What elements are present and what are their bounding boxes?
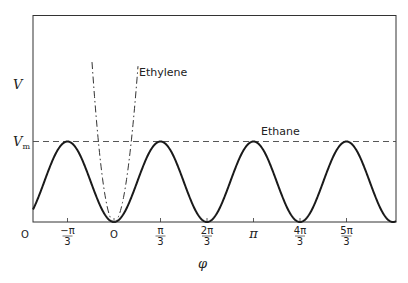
chart-canvas: −π3Oπ32π3π4π35π3 V Vm O φ Ethylene Ethan… [0,0,408,283]
tick-label-four-pi-third-denominator: 3 [297,236,303,247]
ethane-label: Ethane [261,125,300,138]
tick-label-pi: π [248,226,258,241]
tick-label-zero: O [110,229,118,240]
plot-frame [33,16,396,223]
origin-label: O [21,229,29,240]
vm-label: Vm [13,134,30,151]
y-axis-label: V [13,77,24,92]
tick-label-pi-third-numerator: π [157,225,163,236]
tick-label-five-pi-third-denominator: 3 [343,236,349,247]
ethane-curve [33,142,396,223]
tick-label-two-pi-third-numerator: 2π [201,225,213,236]
x-axis-label: φ [198,256,208,271]
tick-label-minus-pi-third-denominator: 3 [64,236,70,247]
ethylene-label: Ethylene [139,66,188,79]
tick-label-two-pi-third-denominator: 3 [204,236,210,247]
tick-label-four-pi-third-numerator: 4π [294,225,306,236]
tick-label-five-pi-third-numerator: 5π [340,225,352,236]
tick-label-minus-pi-third-numerator: −π [60,225,74,236]
tick-label-pi-third-denominator: 3 [157,236,163,247]
